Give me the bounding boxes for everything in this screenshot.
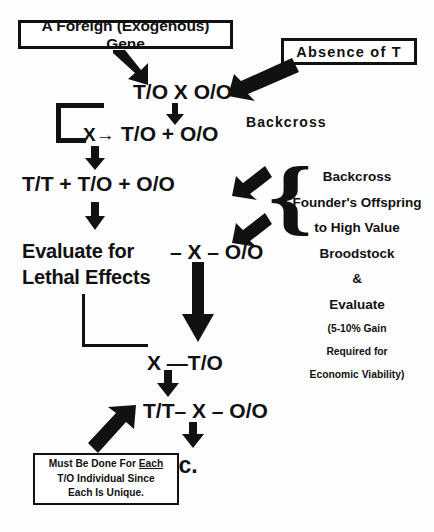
box-note-line-1-prefix: Must Be Done For — [49, 458, 139, 469]
arrow-oo-to-x-to — [182, 262, 214, 342]
box-note: Must Be Done For Each T/O Individual Sin… — [33, 453, 179, 505]
right-annotation-line: Founder's Offspring — [283, 190, 431, 216]
formula-sum: T/T + T/O + O/O — [22, 172, 175, 196]
right-annotation-line: Evaluate — [283, 292, 431, 318]
box-note-line-1-emphasis: Each — [139, 458, 163, 469]
box-foreign-gene: A Foreign (Exogenous) Gene — [18, 20, 233, 49]
arrow-sum-to-evaluate — [85, 202, 105, 230]
right-annotation-line: Backcross — [283, 164, 431, 190]
arrow-final-to-etc — [182, 422, 204, 448]
label-backcross-top: Backcross — [246, 114, 327, 130]
box-absence-of-t-label: Absence of T — [296, 44, 401, 60]
right-annotation-line: Required for — [283, 340, 431, 363]
formula-x-arrow: X→ — [83, 124, 115, 146]
right-annotation-stack: BackcrossFounder's Offspringto High Valu… — [283, 164, 431, 386]
arrow-progeny-to-sum — [85, 146, 105, 170]
formula-cross-2: T/O + O/O — [121, 122, 218, 146]
bracket-upper-top — [56, 103, 104, 108]
right-annotation-line: Broodstock — [283, 241, 431, 267]
arrow-brace-lower — [232, 213, 274, 247]
bracket-lower-bottom — [82, 344, 148, 347]
bracket-upper-vertical — [56, 103, 61, 143]
right-annotation-line: & — [283, 266, 431, 292]
box-note-line-3: Each Is Unique. — [68, 486, 144, 501]
box-note-line-2: T/O Individual Since — [57, 472, 154, 487]
label-evaluate-line-2: Lethal Effects — [22, 266, 150, 289]
bracket-lower-vertical — [82, 294, 85, 347]
right-annotation-line: to High Value — [283, 215, 431, 241]
bracket-upper-bottom — [56, 138, 86, 143]
box-foreign-gene-label: A Foreign (Exogenous) Gene — [21, 17, 230, 53]
right-annotation-line: Economic Viability) — [283, 363, 431, 386]
box-note-line-1: Must Be Done For Each — [49, 457, 163, 472]
formula-cross-1: T/O X O/O — [133, 80, 232, 104]
arrow-x-to-to-final — [157, 370, 179, 397]
arrow-brace-upper — [232, 166, 274, 200]
arrow-note-to-final — [88, 405, 138, 453]
right-annotation-line: (5-10% Gain — [283, 317, 431, 340]
formula-tt-x-oo: T/T– X – O/O — [143, 399, 268, 423]
diagram-canvas: A Foreign (Exogenous) Gene Absence of T … — [0, 0, 434, 532]
label-evaluate-line-1: Evaluate for — [22, 240, 134, 263]
arrow-absence-of-t-to-cross — [228, 58, 303, 100]
